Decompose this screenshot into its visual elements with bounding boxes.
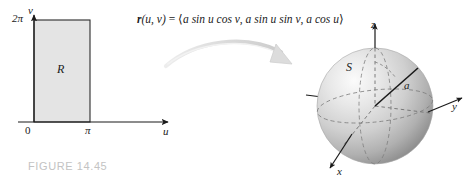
mapping-arrow-curve-inner: [168, 44, 278, 64]
equation-close-bracket: ⟩: [339, 13, 344, 25]
region-label-R: R: [57, 63, 64, 75]
equation-component-z: a cos u: [306, 13, 339, 25]
surface-label-S: S: [346, 61, 352, 73]
equation-arguments: (u, v): [141, 13, 165, 25]
parametrization-equation: r(u, v) = ⟨a sin u cos v, a sin u sin v,…: [137, 14, 344, 26]
y-axis-label: y: [452, 101, 457, 112]
v-axis-tick-2pi: 2π: [12, 13, 23, 24]
uv-domain-panel: [18, 15, 168, 122]
radius-label-a: a: [404, 80, 410, 91]
z-axis-label: z: [371, 19, 375, 30]
equation-equals: =: [169, 13, 176, 25]
mapping-arrow: [166, 42, 292, 66]
u-axis-tick-pi: π: [85, 125, 91, 136]
x-axis-label: x: [337, 166, 342, 177]
figure-caption: FIGURE 14.45: [28, 160, 107, 172]
equation-component-x: a sin u cos v: [183, 13, 240, 25]
origin-label: 0: [25, 125, 31, 136]
figure-graphics: [0, 0, 472, 183]
u-axis-label: u: [163, 126, 169, 137]
figure-container: r(u, v) = ⟨a sin u cos v, a sin u sin v,…: [0, 0, 472, 183]
equation-component-y: a sin u sin v: [246, 13, 301, 25]
sphere-panel: [306, 24, 462, 168]
v-axis-label: v: [28, 5, 33, 16]
